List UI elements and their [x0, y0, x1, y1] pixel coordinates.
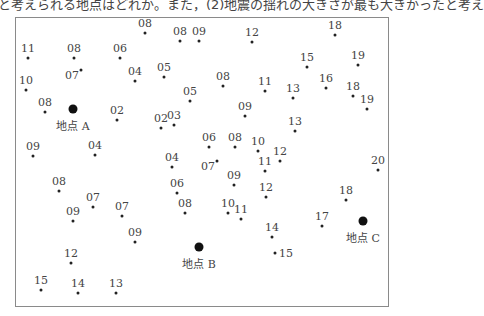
intensity-label: 08 [178, 198, 192, 209]
question-text: と考えられる地点はどれか。また，(2)地震の揺れの大きさが最も大きかったと考え [0, 0, 418, 13]
observation-point [216, 160, 219, 163]
intensity-label: 04 [88, 140, 102, 151]
intensity-label: 11 [258, 156, 272, 167]
intensity-label: 06 [113, 43, 127, 54]
observation-point [233, 184, 236, 187]
intensity-label: 10 [19, 75, 33, 86]
intensity-label: 11 [234, 204, 248, 215]
observation-point [264, 170, 267, 173]
observation-point [292, 97, 295, 100]
intensity-label: 14 [265, 222, 279, 233]
intensity-label: 13 [286, 83, 300, 94]
observation-point [265, 196, 268, 199]
intensity-label: 10 [221, 198, 235, 209]
intensity-label: 19 [351, 50, 365, 61]
observation-point [25, 89, 28, 92]
observation-point [345, 199, 348, 202]
intensity-label: 12 [273, 146, 287, 157]
observation-point [227, 212, 230, 215]
intensity-label: 05 [183, 86, 197, 97]
intensity-label: 12 [259, 182, 273, 193]
observation-point [116, 119, 119, 122]
observation-point [251, 41, 254, 44]
observation-point [357, 64, 360, 67]
observation-point [40, 289, 43, 292]
observation-point [134, 80, 137, 83]
observation-point [134, 241, 137, 244]
observation-point [222, 85, 225, 88]
observation-point [325, 87, 328, 90]
intensity-label: 05 [157, 62, 171, 73]
intensity-label: 02 [110, 105, 124, 116]
intensity-label: 12 [245, 27, 259, 38]
observation-point [27, 57, 30, 60]
intensity-label: 15 [279, 248, 293, 259]
intensity-label: 18 [346, 81, 360, 92]
intensity-label: 15 [300, 52, 314, 63]
observation-point [144, 32, 147, 35]
observation-point [119, 57, 122, 60]
observation-point [115, 292, 118, 295]
intensity-label: 09 [238, 101, 252, 112]
observation-point [58, 190, 61, 193]
observation-point [70, 262, 73, 265]
observation-point [208, 146, 211, 149]
intensity-label: 12 [64, 248, 78, 259]
observation-point [279, 160, 282, 163]
observation-point [72, 220, 75, 223]
intensity-label: 02 [154, 113, 168, 124]
intensity-label: 20 [371, 155, 385, 166]
intensity-label: 07 [65, 70, 79, 81]
intensity-label: 19 [360, 94, 374, 105]
observation-point [94, 154, 97, 157]
observation-point [92, 206, 95, 209]
intensity-label: 14 [71, 278, 85, 289]
observation-point [321, 225, 324, 228]
intensity-label: 15 [34, 275, 48, 286]
intensity-label: 08 [52, 176, 66, 187]
observation-point [306, 66, 309, 69]
observation-point [240, 218, 243, 221]
intensity-label: 08 [67, 43, 81, 54]
observation-point [377, 169, 380, 172]
observation-point [274, 252, 277, 255]
site-label: 地点 B [182, 255, 216, 271]
observation-point [73, 57, 76, 60]
site-marker [359, 217, 368, 226]
observation-point [184, 212, 187, 215]
intensity-label: 09 [66, 206, 80, 217]
observation-point [366, 108, 369, 111]
intensity-label: 16 [319, 73, 333, 84]
observation-point [176, 192, 179, 195]
observation-point [163, 76, 166, 79]
observation-point [198, 40, 201, 43]
intensity-label: 07 [86, 192, 100, 203]
site-marker [195, 243, 204, 252]
observation-point [44, 111, 47, 114]
observation-point [294, 130, 297, 133]
intensity-label: 11 [258, 76, 272, 87]
intensity-label: 04 [165, 152, 179, 163]
intensity-label: 06 [170, 178, 184, 189]
intensity-label: 06 [202, 132, 216, 143]
observation-point [32, 155, 35, 158]
observation-point [173, 124, 176, 127]
observation-point [257, 150, 260, 153]
site-label: 地点 C [346, 229, 380, 245]
intensity-label: 09 [227, 170, 241, 181]
intensity-label: 09 [128, 227, 142, 238]
site-label: 地点 A [56, 117, 89, 133]
site-marker [69, 105, 78, 114]
observation-point [160, 127, 163, 130]
intensity-label: 09 [26, 141, 40, 152]
intensity-label: 08 [216, 71, 230, 82]
observation-point [264, 90, 267, 93]
intensity-label: 07 [115, 201, 129, 212]
observation-point [271, 236, 274, 239]
intensity-label: 09 [192, 26, 206, 37]
observation-point [77, 292, 80, 295]
observation-point [121, 215, 124, 218]
intensity-label: 08 [138, 18, 152, 29]
intensity-label: 13 [288, 116, 302, 127]
observation-point [244, 115, 247, 118]
